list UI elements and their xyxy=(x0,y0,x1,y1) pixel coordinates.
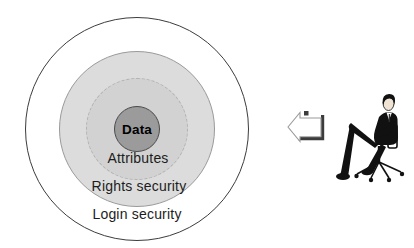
arrow-shadow-notch xyxy=(304,111,309,116)
person-shoe-right xyxy=(362,170,373,176)
seated-person-graphic xyxy=(333,88,412,193)
label-login-security: Login security xyxy=(92,206,181,222)
person-shoe-left xyxy=(336,173,350,180)
label-data: Data xyxy=(122,122,152,137)
left-block-arrow-graphic xyxy=(286,108,328,146)
seated-person-image xyxy=(333,88,412,193)
arrow-body xyxy=(288,113,321,142)
diagram-canvas: Data Attributes Rights security Login se… xyxy=(0,0,414,248)
label-attributes: Attributes xyxy=(107,150,168,166)
person-lower-leg xyxy=(340,125,356,177)
label-rights-security: Rights security xyxy=(92,178,187,194)
left-arrow-icon xyxy=(286,108,328,146)
chair-star-base xyxy=(357,162,401,178)
